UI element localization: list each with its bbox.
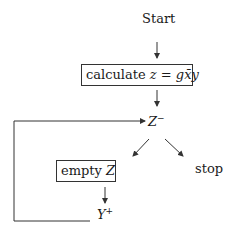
empty-var: Z bbox=[106, 163, 115, 178]
y-plus-sup: + bbox=[106, 206, 114, 216]
y-plus-base: Y bbox=[97, 207, 106, 222]
y-plus-node: Y+ bbox=[97, 207, 113, 221]
calculate-label: calculate bbox=[86, 67, 150, 82]
start-node: Start bbox=[142, 12, 175, 25]
calculate-formula: z = gx̄y bbox=[150, 67, 199, 82]
start-label: Start bbox=[142, 11, 175, 26]
empty-z-node: empty Z bbox=[56, 160, 116, 182]
calculate-node: calculate z = gx̄y bbox=[81, 64, 193, 86]
empty-label: empty bbox=[61, 163, 106, 178]
stop-node: stop bbox=[195, 162, 223, 175]
stop-label: stop bbox=[195, 161, 223, 176]
arrow-zminus-to-stop bbox=[165, 139, 183, 156]
arrow-zminus-to-empty bbox=[133, 139, 149, 156]
z-minus-sup: − bbox=[157, 113, 165, 123]
z-minus-node: Z− bbox=[148, 114, 165, 128]
z-minus-base: Z bbox=[148, 114, 157, 129]
flow-arrows bbox=[0, 0, 234, 231]
